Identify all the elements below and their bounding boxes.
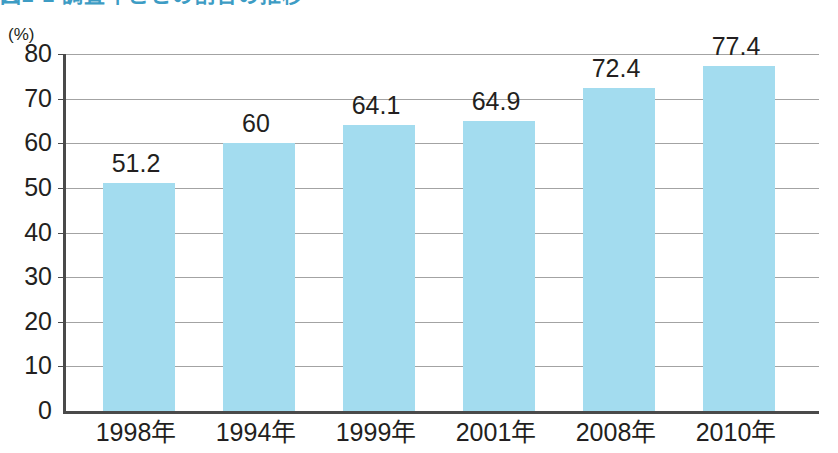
bar-value-label: 77.4: [681, 34, 791, 59]
y-axis-tick-label: 80: [8, 41, 52, 66]
x-axis-tick-label: 1998年: [71, 418, 201, 446]
y-axis-tick-label: 50: [8, 175, 52, 200]
y-axis-tick: [58, 143, 66, 144]
bar: [703, 66, 775, 411]
y-axis-tick-label: 30: [8, 264, 52, 289]
bar-chart: (%) 80706050403020100 1998年1994年1999年200…: [0, 0, 838, 453]
y-axis-tick-label: 60: [8, 130, 52, 155]
y-axis-tick: [58, 322, 66, 323]
x-axis-tick-label: 2010年: [671, 418, 801, 446]
y-axis-tick: [58, 188, 66, 189]
bar-value-label: 64.9: [441, 89, 551, 114]
y-axis-tick: [58, 99, 66, 100]
bar: [103, 183, 175, 411]
y-axis-tick-label: 40: [8, 220, 52, 245]
x-axis-tick-label: 1994年: [191, 418, 321, 446]
y-axis-tick-label: 0: [8, 398, 52, 423]
bar-value-label: 64.1: [321, 93, 431, 118]
x-axis-tick-label: 1999年: [311, 418, 441, 446]
y-axis-tick: [58, 233, 66, 234]
x-axis-tick-label: 2008年: [551, 418, 681, 446]
bar-value-label: 72.4: [561, 56, 671, 81]
y-axis-tick-label: 70: [8, 86, 52, 111]
y-axis-tick-label: 10: [8, 353, 52, 378]
y-axis-tick: [58, 54, 66, 55]
bar: [583, 88, 655, 411]
bar: [343, 125, 415, 411]
y-axis-tick-labels: 80706050403020100: [0, 0, 52, 453]
bar: [463, 121, 535, 411]
y-axis-tick: [58, 277, 66, 278]
y-axis-tick: [58, 366, 66, 367]
bar-value-label: 51.2: [81, 151, 191, 176]
bar-value-label: 60: [201, 111, 311, 136]
x-axis-tick-label: 2001年: [431, 418, 561, 446]
bar: [223, 143, 295, 411]
y-axis-tick-label: 20: [8, 309, 52, 334]
